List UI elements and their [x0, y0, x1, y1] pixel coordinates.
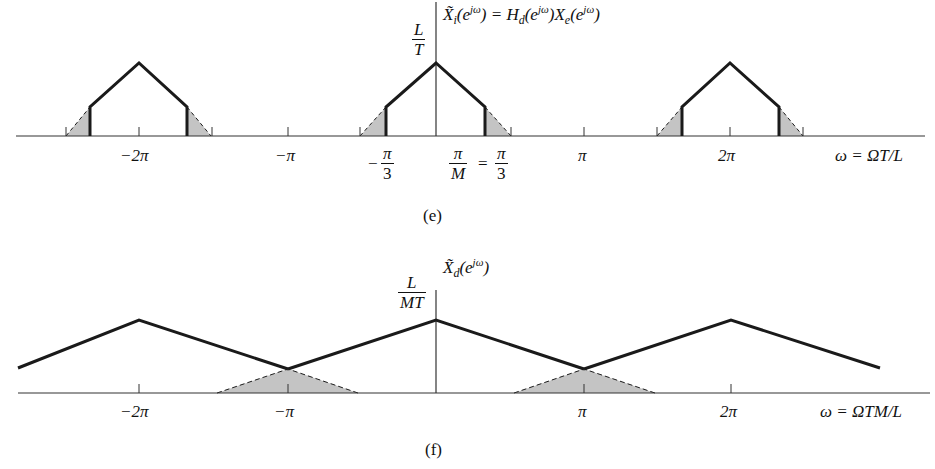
tick-label-2pi-f: 2π	[720, 402, 737, 422]
tick-label-2pi-e: 2π	[718, 146, 735, 166]
dashed-tails	[66, 107, 803, 136]
peak-label-e: L T	[412, 20, 425, 59]
ticks-e	[66, 127, 803, 136]
shaded-aliasing-tails	[66, 107, 803, 136]
tick-label-pi-f: π	[578, 402, 587, 422]
figure: X̃i(ejω) = Hd(ejω)Xe(ejω) L T −2π −π − π…	[0, 0, 935, 469]
axis-label-e: ω = ΩT/L	[835, 146, 903, 166]
tick-label-minus-pi-over-3: π 3	[381, 144, 394, 183]
panel-f-plot	[18, 290, 930, 393]
tick-label-minus-2pi-f: −2π	[120, 402, 149, 422]
tick-label-minus-sign: −	[368, 154, 378, 174]
decimated-spectra	[18, 320, 880, 369]
axis-label-f: ω = ΩTM/L	[820, 402, 902, 422]
tick-label-minus-pi-e: −π	[275, 146, 295, 166]
tick-label-minus-pi-f: −π	[274, 402, 294, 422]
tick-label-pi-over-M: π M	[449, 144, 467, 183]
tick-label-minus-2pi-e: −2π	[120, 146, 149, 166]
tick-label-pi-over-3: π 3	[495, 144, 508, 183]
spectra-plot	[0, 0, 935, 469]
panel-e-title: X̃i(ejω) = Hd(ejω)Xe(ejω)	[443, 3, 600, 28]
tick-label-equals: =	[478, 154, 488, 174]
panel-f-title: X̃d(ejω)	[443, 256, 489, 281]
caption-e: (e)	[423, 206, 442, 226]
caption-f: (f)	[425, 440, 442, 460]
peak-label-f: L MT	[398, 273, 426, 312]
tick-label-pi-e: π	[578, 146, 587, 166]
